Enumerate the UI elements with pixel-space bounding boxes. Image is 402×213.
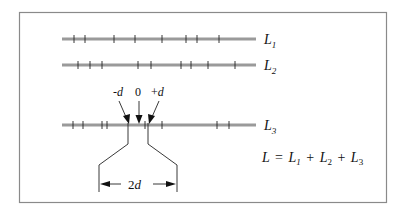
scale-line-l2: L2 <box>62 58 277 76</box>
line-label-l1: L1 <box>263 32 276 50</box>
offset-markers: -d 0 +d <box>113 85 165 124</box>
plus-d-arrowhead-icon <box>148 114 155 124</box>
minus-d-label: -d <box>113 85 124 99</box>
dimension-label: 2d <box>128 177 142 192</box>
diagram-frame <box>20 13 387 203</box>
zero-arrowhead-icon <box>136 115 143 124</box>
measurement-diagram: L1L2L3 -d 0 +d 2d L = L1 + L2 + L3 <box>0 0 402 213</box>
scale-lines: L1L2L3 <box>62 32 277 136</box>
minus-d-arrow-shaft <box>119 101 126 117</box>
bracket-left <box>99 123 128 192</box>
line-label-l3: L3 <box>263 118 277 136</box>
scale-line-l3: L3 <box>62 118 277 136</box>
bracket-right <box>148 123 177 192</box>
plus-d-arrow-shaft <box>152 101 159 117</box>
scale-line-l1: L1 <box>62 32 276 50</box>
minus-d-arrowhead-icon <box>123 114 130 124</box>
zero-label: 0 <box>135 85 141 99</box>
sum-equation: L = L1 + L2 + L3 <box>261 150 364 168</box>
line-label-l2: L2 <box>263 58 277 76</box>
dimension-right-arrowhead-icon <box>166 181 176 187</box>
dimension-left-arrowhead-icon <box>100 181 110 187</box>
tolerance-bracket: 2d <box>99 123 177 192</box>
plus-d-label: +d <box>151 85 165 99</box>
